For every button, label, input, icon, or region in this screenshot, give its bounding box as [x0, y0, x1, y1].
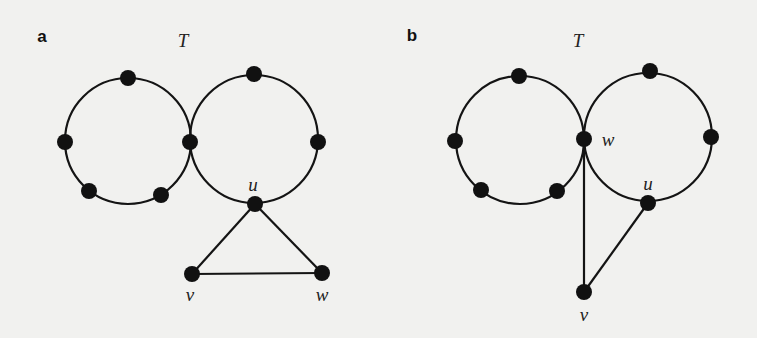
panel-a: a T uvw	[37, 27, 330, 305]
vertex-u	[247, 196, 263, 212]
panel-a-nodes	[57, 66, 330, 282]
vertex-w	[576, 131, 592, 147]
vertex-right-right	[703, 129, 719, 145]
vertex-left-bottom-left	[81, 183, 97, 199]
vertex-right-top	[642, 63, 658, 79]
vertex-v	[576, 284, 592, 300]
vertex-left-bottom-right	[549, 183, 565, 199]
vertex-left-top	[120, 70, 136, 86]
vertex-right-top	[246, 66, 262, 82]
vertex-shared	[182, 134, 198, 150]
graph-figure: a T uvw b T wuv	[0, 0, 757, 338]
panel-a-graph-title: T	[178, 30, 190, 51]
edge-v-w	[192, 273, 322, 274]
vertex-left-bottom-left	[473, 182, 489, 198]
vertex-w	[314, 265, 330, 281]
edge-u-v	[584, 203, 648, 292]
vertex-label-w: w	[602, 129, 615, 150]
vertex-left-left	[57, 134, 73, 150]
panel-a-edges	[192, 204, 322, 274]
panel-b-label: b	[407, 26, 417, 45]
panel-b-edges	[584, 139, 648, 292]
vertex-right-right	[310, 134, 326, 150]
edge-u-w	[255, 204, 322, 273]
vertex-u	[640, 195, 656, 211]
edge-u-v	[192, 204, 255, 274]
vertex-v	[184, 266, 200, 282]
figure-container: a T uvw b T wuv	[0, 0, 757, 338]
panel-b: b T wuv	[407, 26, 719, 325]
vertex-left-bottom-right	[153, 187, 169, 203]
vertex-label-v: v	[186, 284, 195, 305]
vertex-label-u: u	[643, 173, 653, 194]
vertex-left-left	[447, 133, 463, 149]
panel-a-label: a	[37, 27, 47, 46]
vertex-label-u: u	[248, 174, 258, 195]
vertex-left-top	[511, 68, 527, 84]
panel-b-graph-title: T	[573, 30, 585, 51]
panel-a-node-labels: uvw	[186, 174, 329, 305]
vertex-label-w: w	[316, 284, 329, 305]
vertex-label-v: v	[580, 304, 589, 325]
